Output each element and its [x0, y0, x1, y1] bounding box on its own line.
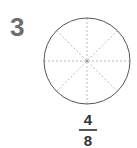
fraction-bar	[79, 129, 97, 131]
denominator: 8	[77, 133, 99, 148]
fraction-label: 4 8	[77, 112, 99, 148]
numerator: 4	[77, 112, 99, 127]
fraction-circle-diagram	[0, 0, 137, 148]
center-dot	[86, 60, 88, 62]
